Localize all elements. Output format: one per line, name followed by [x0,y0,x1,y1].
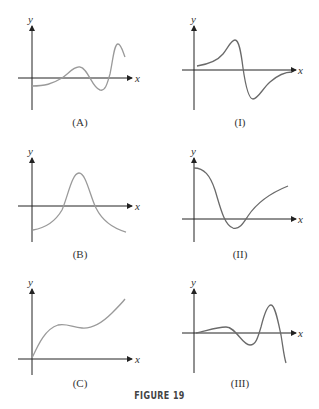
panel-label: (A) [0,116,160,128]
x-axis-label: x [297,213,303,225]
panel-label: (B) [0,248,160,260]
y-axis-label: y [190,13,196,25]
y-axis-label: y [27,145,33,157]
curve-a [32,44,125,90]
panel-label: (II) [160,248,319,260]
panel-iii: y x (III) [160,265,319,397]
curve-iii [196,305,286,363]
panel-ii: y x (II) [160,130,319,262]
graph-ii: y x [160,130,319,262]
figure-caption: FIGURE 19 [32,390,287,401]
x-axis-label: x [134,200,140,212]
panel-label: (I) [160,116,319,128]
x-axis-label: x [297,64,303,76]
x-axis-label: x [297,327,303,339]
graph-b: y x [0,130,160,262]
x-axis-label: x [134,353,140,365]
x-axis-label: x [134,72,140,84]
y-axis-label: y [190,276,196,288]
panel-c: y x (C) [0,265,160,397]
y-axis-label: y [27,13,33,25]
curve-b [33,173,126,232]
y-axis-label: y [190,145,196,157]
panel-a: y x (A) [0,0,160,132]
y-axis-label: y [27,276,33,288]
panel-label: (III) [160,377,319,389]
panel-b: y x (B) [0,130,160,262]
graph-a: y x [0,0,160,132]
curve-c [32,299,125,358]
graph-i: y x [160,0,319,132]
panel-label: (C) [0,377,160,389]
panel-i: y x (I) [160,0,319,132]
